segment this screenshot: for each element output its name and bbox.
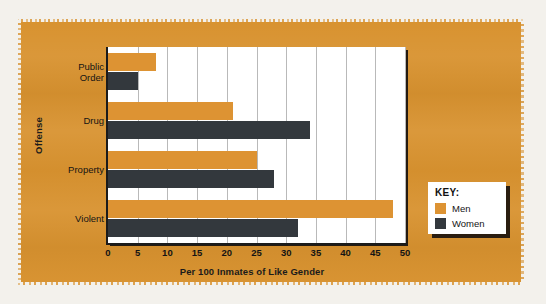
bar-violent-men [108,200,393,218]
x-tick-label: 50 [392,247,418,258]
x-axis-line [106,243,407,245]
legend-title: KEY: [435,187,506,198]
legend-label: Men [452,203,470,214]
plot-area [108,47,405,243]
x-tick-label: 25 [244,247,270,258]
legend-item-women: Women [435,216,506,231]
y-axis-title: Offense [33,91,44,181]
category-label-violent: Violent [24,213,104,224]
gridline [405,47,406,243]
category-label-public-order: PublicOrder [24,61,104,83]
bar-violent-women [108,219,298,237]
x-tick-label: 15 [184,247,210,258]
legend-rows: MenWomen [435,201,506,231]
x-tick-label: 45 [362,247,388,258]
bar-drug-men [108,102,233,120]
x-tick-label: 0 [95,247,121,258]
x-tick-label: 20 [214,247,240,258]
legend-swatch-women-icon [435,218,446,229]
bar-public-order-women [108,72,138,90]
legend-swatch-men-icon [435,203,446,214]
bar-drug-women [108,121,310,139]
x-tick-label: 5 [125,247,151,258]
chart-screenshot: PublicOrderDrugPropertyViolent 051015202… [0,0,546,304]
legend-item-men: Men [435,201,506,216]
bar-property-women [108,170,274,188]
x-tick-label: 10 [154,247,180,258]
x-tick-label: 30 [273,247,299,258]
y-axis-line [106,47,108,243]
x-axis-title: Per 100 Inmates of Like Gender [92,266,412,277]
bar-property-men [108,151,257,169]
x-tick-label: 40 [333,247,359,258]
legend-label: Women [452,218,485,229]
bar-public-order-men [108,53,156,71]
x-tick-label: 35 [303,247,329,258]
legend-box: KEY: MenWomen [428,182,506,234]
